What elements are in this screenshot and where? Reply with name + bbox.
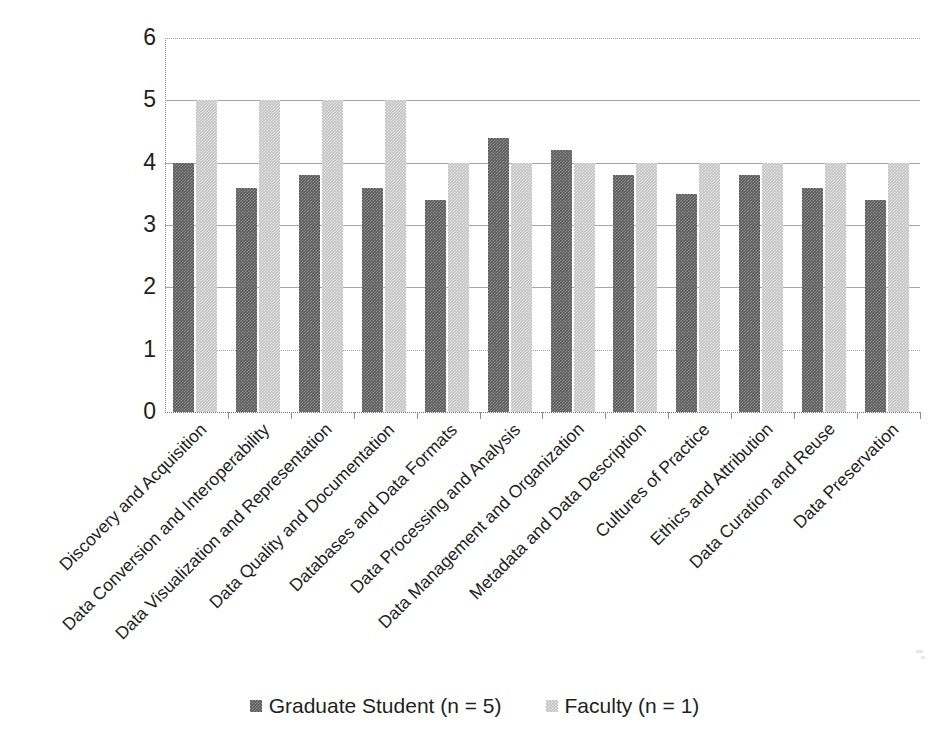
plot-area (165, 38, 920, 412)
chart-legend: Graduate Student (n = 5)Faculty (n = 1) (0, 693, 949, 719)
x-axis-category-label: Cultures of Practice (592, 420, 713, 541)
bar-chart-figure: 6543210 Discovery and AcquisitionData Co… (0, 0, 949, 755)
bar-faculty (448, 163, 469, 412)
bar-graduate-student (865, 200, 886, 412)
bar-graduate-student (551, 150, 572, 412)
y-tick-label-2: 2 (114, 275, 156, 298)
bar-group (165, 38, 228, 412)
bar-graduate-student (676, 194, 697, 412)
bar-graduate-student (362, 188, 383, 412)
bar-faculty (196, 100, 217, 412)
bar-group (857, 38, 920, 412)
bar-faculty (888, 163, 909, 412)
bar-graduate-student (739, 175, 760, 412)
y-axis-labels: 6543210 (110, 0, 156, 460)
bar-graduate-student (488, 138, 509, 412)
x-axis-label-text: Ethics and Attribution (646, 419, 776, 549)
bar-faculty (511, 163, 532, 412)
bar-faculty (574, 163, 595, 412)
bar-graduate-student (236, 188, 257, 412)
y-tick-label-5: 5 (114, 88, 156, 111)
bar-faculty (322, 100, 343, 412)
y-tick-label-6: 6 (114, 26, 156, 49)
bar-group (731, 38, 794, 412)
bar-group (794, 38, 857, 412)
bar-graduate-student (425, 200, 446, 412)
y-tick-label-1: 1 (114, 338, 156, 361)
legend-swatch-light (546, 700, 558, 712)
bar-group (480, 38, 543, 412)
bar-group (291, 38, 354, 412)
bar-graduate-student (613, 175, 634, 412)
bar-faculty (636, 163, 657, 412)
scan-speck (921, 656, 925, 659)
legend-item: Graduate Student (n = 5) (250, 693, 502, 719)
legend-swatch-dark (250, 700, 262, 712)
bar-faculty (259, 100, 280, 412)
x-axis-label-text: Cultures of Practice (591, 419, 713, 541)
legend-item: Faculty (n = 1) (546, 693, 700, 719)
y-tick-label-4: 4 (114, 151, 156, 174)
bar-group (417, 38, 480, 412)
x-axis-category-label: Ethics and Attribution (647, 420, 776, 549)
bar-graduate-student (802, 188, 823, 412)
bar-faculty (699, 163, 720, 412)
bar-graduate-student (299, 175, 320, 412)
bar-faculty (385, 100, 406, 412)
x-axis-label-text: Data Visualization and Representation (112, 419, 336, 643)
x-axis-category-labels: Discovery and AcquisitionData Conversion… (0, 414, 949, 664)
bar-group (605, 38, 668, 412)
legend-label: Graduate Student (n = 5) (269, 694, 502, 717)
bar-group (228, 38, 291, 412)
figure-caption (0, 742, 949, 755)
bar-group (543, 38, 606, 412)
bar-faculty (762, 163, 783, 412)
y-tick-label-3: 3 (114, 213, 156, 236)
bar-group (354, 38, 417, 412)
bar-faculty (825, 163, 846, 412)
legend-label: Faculty (n = 1) (565, 694, 700, 717)
bar-graduate-student (173, 163, 194, 412)
scan-speck (916, 650, 923, 653)
bar-group (668, 38, 731, 412)
